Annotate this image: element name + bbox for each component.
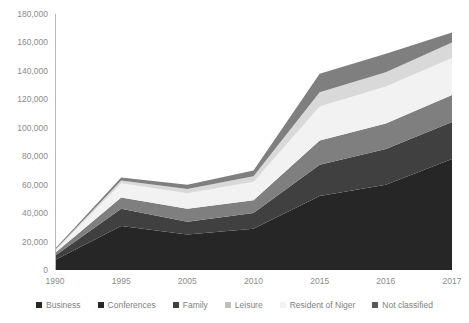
legend-swatch-icon [98, 302, 104, 308]
y-axis-tick-label: 180,000 [17, 9, 48, 19]
y-axis-tick-label: 120,000 [17, 94, 48, 104]
y-axis-tick-label: 20,000 [22, 237, 48, 247]
legend-swatch-icon [36, 302, 42, 308]
x-axis-tick-label: 2015 [310, 276, 329, 286]
legend-label: Conferences [108, 300, 156, 310]
legend-label: Leisure [235, 300, 263, 310]
legend-item[interactable]: Family [173, 300, 208, 310]
y-axis-labels: 020,00040,00060,00080,000100,000120,0001… [17, 9, 48, 275]
y-axis-tick-label: 40,000 [22, 208, 48, 218]
y-axis-tick-label: 0 [43, 265, 48, 275]
x-axis-labels: 1990199520052010201520162017 [46, 276, 462, 286]
legend-swatch-icon [280, 302, 286, 308]
legend-item[interactable]: Resident of Niger [280, 300, 356, 310]
legend-item[interactable]: Business [36, 300, 81, 310]
chart-plot-area: 020,00040,00060,00080,000100,000120,0001… [0, 0, 469, 296]
legend-item[interactable]: Not classified [372, 300, 433, 310]
legend-swatch-icon [372, 302, 378, 308]
y-axis-tick-label: 160,000 [17, 37, 48, 47]
legend-label: Resident of Niger [290, 300, 356, 310]
x-axis-tick-label: 2010 [244, 276, 263, 286]
legend-item[interactable]: Conferences [98, 300, 156, 310]
legend-label: Family [183, 300, 208, 310]
legend-swatch-icon [173, 302, 179, 308]
x-axis-tick-label: 2005 [178, 276, 197, 286]
area-series-group [55, 32, 452, 270]
x-axis-tick-label: 1990 [46, 276, 65, 286]
y-axis-tick-label: 60,000 [22, 180, 48, 190]
x-axis-tick-label: 2016 [376, 276, 395, 286]
legend-label: Business [46, 300, 81, 310]
legend-swatch-icon [225, 302, 231, 308]
legend-label: Not classified [382, 300, 433, 310]
y-axis-tick-label: 100,000 [17, 123, 48, 133]
legend-item[interactable]: Leisure [225, 300, 263, 310]
stacked-area-chart: 020,00040,00060,00080,000100,000120,0001… [0, 0, 469, 323]
x-axis-tick-label: 2017 [443, 276, 462, 286]
chart-legend: BusinessConferencesFamilyLeisureResident… [0, 296, 469, 314]
y-axis-tick-label: 80,000 [22, 151, 48, 161]
x-axis-tick-label: 1995 [112, 276, 131, 286]
y-axis-tick-label: 140,000 [17, 66, 48, 76]
